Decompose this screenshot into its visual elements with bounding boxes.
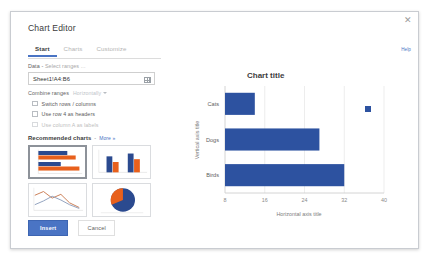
recommended-charts-header: Recommended charts - More » bbox=[28, 135, 163, 141]
chart-bar bbox=[225, 93, 255, 115]
tab-charts[interactable]: Charts bbox=[57, 43, 90, 55]
chart-bar bbox=[225, 164, 344, 186]
pie-chart-thumb[interactable] bbox=[92, 183, 151, 217]
help-link[interactable]: Help bbox=[401, 47, 411, 52]
horizontal-bar-chart-thumb[interactable] bbox=[28, 145, 87, 179]
dialog-footer: Insert Cancel bbox=[28, 220, 115, 236]
chart-x-tick-label: 40 bbox=[381, 197, 387, 203]
chart-category-labels: CatsDogsBirds bbox=[206, 101, 219, 178]
chart-y-axis-title: Vertical axis title bbox=[194, 121, 200, 160]
recommended-charts-more-link[interactable]: More » bbox=[99, 135, 115, 141]
chart-legend-marker bbox=[365, 106, 371, 112]
range-input[interactable]: Sheet1!A4:B6 bbox=[28, 72, 155, 85]
chart-bars bbox=[225, 93, 344, 186]
checkbox-box bbox=[32, 111, 38, 117]
combine-ranges-select[interactable]: Horizontally bbox=[73, 90, 107, 96]
insert-button[interactable]: Insert bbox=[28, 220, 68, 236]
chart-preview-svg: Chart title CatsDogsBirds 816243240 Hori… bbox=[169, 64, 411, 224]
column-chart-thumb[interactable] bbox=[92, 145, 151, 179]
chevron-down-icon bbox=[103, 92, 107, 94]
range-input-value: Sheet1!A4:B6 bbox=[29, 76, 70, 82]
chart-preview[interactable]: Chart title CatsDogsBirds 816243240 Hori… bbox=[169, 64, 411, 224]
dialog-title: Chart Editor bbox=[28, 23, 76, 33]
tab-start[interactable]: Start bbox=[28, 43, 57, 57]
screenshot-root: ✕ Chart Editor Help Start Charts Customi… bbox=[0, 0, 429, 260]
checkbox-use-column-as-labels[interactable]: Use column A as labels bbox=[28, 122, 163, 128]
chart-x-tick-label: 32 bbox=[341, 197, 347, 203]
checkbox-box bbox=[32, 101, 38, 107]
chart-thumbnail-list bbox=[28, 145, 157, 217]
chart-x-tick-labels: 816243240 bbox=[224, 197, 388, 203]
chart-x-tick-label: 16 bbox=[262, 197, 268, 203]
data-range-label: Data - Select ranges ... bbox=[28, 63, 163, 69]
chart-x-tick-label: 8 bbox=[224, 197, 227, 203]
cancel-button[interactable]: Cancel bbox=[78, 220, 115, 236]
tab-customize[interactable]: Customize bbox=[89, 43, 133, 55]
chart-bar bbox=[225, 128, 319, 150]
combine-ranges-row: Combine ranges Horizontally bbox=[28, 90, 163, 96]
chart-category-label: Dogs bbox=[206, 137, 219, 143]
chart-category-label: Cats bbox=[207, 101, 219, 107]
recommended-charts-title: Recommended charts bbox=[28, 135, 91, 141]
chart-editor-dialog: ✕ Chart Editor Help Start Charts Customi… bbox=[10, 11, 419, 249]
checkbox-label: Use column A as labels bbox=[42, 122, 99, 128]
checkbox-box bbox=[32, 122, 38, 128]
checkbox-use-row-as-headers[interactable]: Use row 4 as headers bbox=[28, 111, 163, 117]
chart-x-axis-title: Horizontal axis title bbox=[276, 211, 321, 217]
recommended-charts-dash: - bbox=[94, 135, 96, 141]
checkbox-label: Switch rows / columns bbox=[42, 101, 97, 107]
tab-bar: Start Charts Customize bbox=[28, 43, 161, 59]
checkbox-label: Use row 4 as headers bbox=[42, 111, 96, 117]
chart-title: Chart title bbox=[247, 71, 285, 80]
chart-x-tick-label: 24 bbox=[302, 197, 308, 203]
checkbox-switch-rows-columns[interactable]: Switch rows / columns bbox=[28, 101, 163, 107]
start-panel: Data - Select ranges ... Sheet1!A4:B6 Co… bbox=[28, 63, 163, 217]
chart-category-label: Birds bbox=[206, 172, 219, 178]
close-icon[interactable]: ✕ bbox=[402, 14, 414, 26]
grid-select-icon[interactable] bbox=[144, 77, 151, 83]
combine-ranges-value: Horizontally bbox=[73, 90, 101, 96]
data-label-hint: Select ranges ... bbox=[45, 63, 86, 69]
combine-ranges-label: Combine ranges bbox=[28, 90, 69, 96]
line-chart-thumb[interactable] bbox=[28, 183, 87, 217]
data-label-text: Data bbox=[28, 63, 40, 69]
